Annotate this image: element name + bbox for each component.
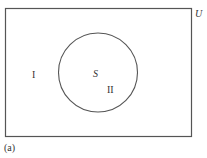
region-label-inside: II	[107, 84, 114, 95]
figure-caption: (a)	[4, 142, 15, 154]
universe-label: U	[195, 8, 203, 19]
venn-diagram: U S I II (a)	[0, 0, 207, 158]
set-label: S	[93, 68, 98, 79]
region-label-outside: I	[32, 69, 35, 80]
